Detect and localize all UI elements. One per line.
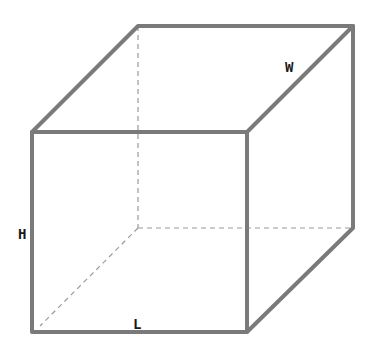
right-face-edges [247,26,353,332]
width-label: W [285,59,293,75]
hidden-depth-edge [40,228,138,326]
height-label: H [18,226,26,242]
cube-diagram [0,0,378,353]
front-face [32,132,247,332]
top-face-edges [32,26,353,132]
length-label: L [133,316,141,332]
